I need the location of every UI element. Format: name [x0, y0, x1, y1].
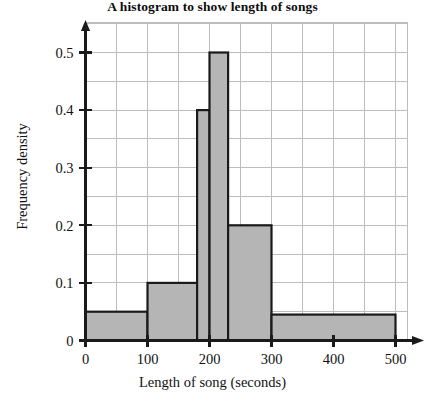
y-tick-label: 0.5 [55, 45, 73, 61]
x-tick-label: 400 [323, 351, 345, 367]
histogram-bar [210, 53, 229, 341]
x-tick-label: 300 [261, 351, 283, 367]
x-tick-label: 100 [137, 351, 159, 367]
y-tick-label: 0.2 [55, 218, 73, 234]
x-tick-label: 200 [199, 351, 221, 367]
y-tick-label: 0.4 [55, 102, 74, 118]
plot-area: 010020030040050000.10.20.30.40.5 [0, 0, 425, 405]
x-axis-arrowhead [412, 336, 424, 345]
x-tick-label: 500 [385, 351, 407, 367]
x-tick-label: 0 [82, 351, 89, 367]
y-tick-label: 0 [66, 333, 73, 349]
histogram-bar [86, 312, 148, 341]
y-tick-label: 0.1 [55, 275, 73, 291]
y-tick-label: 0.3 [55, 160, 73, 176]
histogram-figure: A histogram to show length of songs Freq… [0, 0, 425, 405]
y-axis-arrowhead [81, 20, 90, 31]
histogram-bar [148, 283, 198, 341]
histogram-bar [197, 110, 209, 340]
histogram-bar [228, 225, 271, 340]
